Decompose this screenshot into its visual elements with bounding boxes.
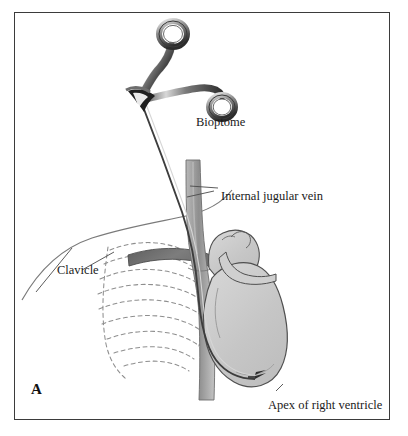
label-clavicle: Clavicle: [57, 264, 99, 277]
label-bioptome: Bioptome: [196, 116, 245, 129]
figure-panel: Bioptome Internal jugular vein Clavicle …: [0, 0, 408, 436]
forceps-hinge: [126, 88, 155, 112]
rib-cage-dashed: [98, 243, 202, 379]
heart: [203, 230, 287, 387]
medical-illustration: [0, 0, 408, 436]
label-apex-of-right-ventricle: Apex of right ventricle: [268, 399, 382, 412]
label-internal-jugular-vein: Internal jugular vein: [221, 190, 323, 203]
bioptome-forceps: [126, 21, 235, 119]
leader-apex: [276, 384, 283, 391]
panel-letter: A: [31, 381, 42, 398]
